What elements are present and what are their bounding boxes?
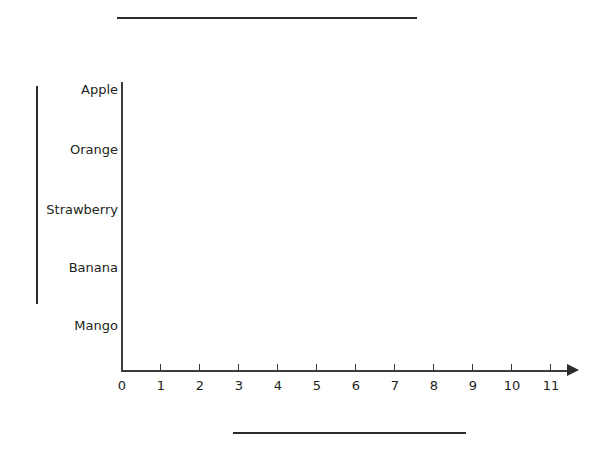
y-tick-label-banana: Banana — [69, 260, 118, 275]
x-tick-label-9: 9 — [458, 378, 488, 394]
x-tick-label-10: 10 — [497, 378, 527, 394]
y-tick-label-apple: Apple — [81, 82, 118, 97]
y-tick-label-mango: Mango — [74, 318, 118, 333]
x-tick-mark-9 — [472, 364, 473, 371]
chart-canvas: Apple Orange Strawberry Banana Mango 0 1… — [0, 0, 603, 457]
x-tick-label-11: 11 — [536, 378, 566, 394]
x-tick-mark-2 — [199, 364, 200, 371]
x-tick-mark-7 — [394, 364, 395, 371]
x-tick-label-1: 1 — [146, 378, 176, 394]
x-tick-mark-6 — [355, 364, 356, 371]
plot-area — [123, 82, 570, 370]
x-axis-line — [121, 370, 571, 372]
x-tick-label-4: 4 — [263, 378, 293, 394]
y-tick-label-orange: Orange — [70, 142, 118, 157]
x-tick-mark-10 — [511, 364, 512, 371]
x-tick-label-7: 7 — [380, 378, 410, 394]
x-tick-label-3: 3 — [224, 378, 254, 394]
x-tick-label-2: 2 — [185, 378, 215, 394]
x-tick-mark-11 — [550, 364, 551, 371]
x-tick-label-0: 0 — [107, 378, 137, 394]
x-tick-label-5: 5 — [302, 378, 332, 394]
x-tick-mark-3 — [238, 364, 239, 371]
x-tick-mark-0 — [121, 364, 122, 371]
y-tick-label-strawberry: Strawberry — [46, 202, 118, 217]
x-tick-label-6: 6 — [341, 378, 371, 394]
x-tick-mark-1 — [160, 364, 161, 371]
x-tick-mark-5 — [316, 364, 317, 371]
x-tick-label-8: 8 — [419, 378, 449, 394]
x-tick-mark-4 — [277, 364, 278, 371]
x-axis-label-redaction-bar — [233, 432, 466, 434]
y-axis-label-redaction-bar — [36, 86, 38, 304]
x-tick-mark-8 — [433, 364, 434, 371]
chart-title-redaction-bar — [117, 17, 417, 19]
